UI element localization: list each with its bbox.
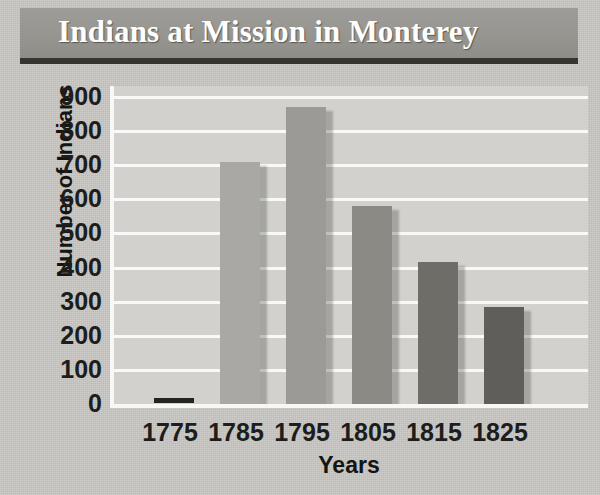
y-tick-label: 800	[30, 118, 102, 143]
gridline	[114, 130, 588, 133]
bar	[418, 262, 458, 404]
gridline	[114, 267, 588, 270]
gridline	[114, 164, 588, 167]
bar-zero-marker	[154, 398, 194, 403]
bar-fill	[484, 307, 524, 404]
title-banner: Indians at Mission in Monterey	[20, 8, 578, 58]
y-tick-label: 100	[30, 357, 102, 382]
bar	[220, 162, 260, 404]
gridline	[114, 198, 588, 201]
x-axis-label: Years	[110, 452, 588, 479]
plot-area	[114, 86, 588, 404]
x-tick-label: 1825	[458, 418, 542, 447]
bar	[286, 107, 326, 404]
y-tick-label: 700	[30, 152, 102, 177]
y-axis-ticks: Number of Indians 0100200300400500600700…	[24, 0, 102, 495]
plot-frame	[110, 86, 588, 408]
y-tick-label: 0	[30, 391, 102, 416]
gridline	[114, 96, 588, 99]
chart-title: Indians at Mission in Monterey	[58, 14, 479, 50]
gridline	[114, 232, 588, 235]
y-tick-label: 300	[30, 289, 102, 314]
bar	[484, 307, 524, 404]
bar-fill	[418, 262, 458, 404]
bar	[352, 206, 392, 404]
bar	[154, 398, 194, 404]
bar-fill	[220, 162, 260, 404]
y-tick-label: 200	[30, 323, 102, 348]
y-tick-label: 600	[30, 186, 102, 211]
bar-fill	[352, 206, 392, 404]
gridline	[114, 301, 588, 304]
y-tick-label: 400	[30, 255, 102, 280]
y-tick-label: 500	[30, 220, 102, 245]
y-tick-label: 900	[30, 84, 102, 109]
bar-fill	[286, 107, 326, 404]
